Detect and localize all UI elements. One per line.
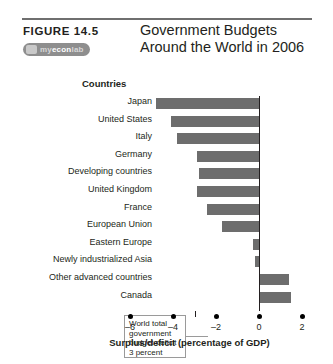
figure-title-line-2: Around the World in 2006	[140, 39, 330, 56]
x-axis-tick-label: –2	[204, 322, 228, 332]
x-axis-tick-marker	[300, 314, 305, 319]
header-divider	[22, 18, 312, 20]
x-axis-tick-marker	[171, 314, 176, 319]
x-axis-tick-label: 2	[290, 322, 314, 332]
figure-title-line-1: Government Budgets	[140, 22, 330, 39]
bar	[199, 168, 259, 179]
plot-area: JapanUnited StatesItalyGermanyDeveloping…	[0, 96, 333, 311]
bars-layer	[0, 96, 333, 311]
x-axis-tick-label: –4	[161, 322, 185, 332]
bar	[207, 204, 259, 215]
x-axis-title: Surplus/deficit (percentage of GDP)	[0, 337, 333, 348]
myeconlab-badge[interactable]: myeconlab	[23, 43, 90, 56]
bar	[156, 98, 259, 109]
bar	[197, 151, 259, 162]
zero-reference-line	[259, 96, 260, 311]
x-axis-tick-label: 0	[247, 322, 271, 332]
x-axis-title-text: Surplus/deficit (percentage of GDP)	[63, 337, 269, 348]
figure-number-label: FIGURE 14.5	[23, 25, 128, 37]
myeconlab-logo-icon	[26, 45, 37, 54]
figure-container: FIGURE 14.5 myeconlab Government Budgets…	[0, 0, 333, 364]
x-axis-tick-label: –6	[118, 322, 142, 332]
bar	[171, 116, 259, 127]
bar	[197, 186, 259, 197]
y-axis-title: Countries	[82, 78, 126, 89]
badge-prefix: my	[40, 45, 52, 54]
bar	[177, 133, 259, 144]
bar	[259, 292, 291, 303]
bar	[222, 221, 259, 232]
x-axis-tick-marker	[214, 314, 219, 319]
myeconlab-badge-text: myeconlab	[40, 43, 84, 56]
figure-header-left: FIGURE 14.5 myeconlab	[23, 25, 128, 58]
x-axis: Surplus/deficit (percentage of GDP) –6–4…	[0, 311, 333, 364]
world-total-tick-marker	[195, 311, 196, 317]
badge-suffix: lab	[71, 45, 83, 54]
figure-title: Government Budgets Around the World in 2…	[140, 22, 330, 56]
x-axis-tick-marker	[128, 314, 133, 319]
badge-main: econ	[52, 45, 71, 54]
x-axis-tick-marker	[257, 314, 262, 319]
bar	[259, 274, 289, 285]
